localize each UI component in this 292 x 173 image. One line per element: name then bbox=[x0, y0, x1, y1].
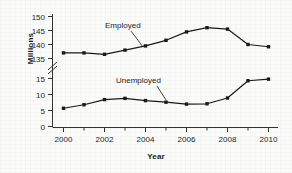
data-point-marker bbox=[164, 39, 167, 42]
data-point-marker bbox=[267, 45, 270, 48]
series-label-unemployed: Unemployed bbox=[116, 76, 161, 85]
x-axis-title: Year bbox=[126, 152, 186, 161]
annotation-employed: Employed bbox=[105, 21, 143, 47]
x-tick-label-2002: 2002 bbox=[96, 135, 114, 144]
data-point-marker bbox=[226, 96, 229, 99]
y-tick-label-5: 5 bbox=[41, 107, 46, 116]
series-employed bbox=[62, 26, 270, 56]
data-point-marker bbox=[226, 27, 229, 30]
data-point-marker bbox=[144, 44, 147, 47]
series-employed-markers bbox=[62, 26, 270, 56]
data-point-marker bbox=[123, 48, 126, 51]
data-point-marker bbox=[185, 102, 188, 105]
data-point-marker bbox=[246, 43, 249, 46]
data-point-marker bbox=[144, 99, 147, 102]
data-point-marker bbox=[82, 103, 85, 106]
series-unemployed-line bbox=[64, 79, 269, 108]
data-point-marker bbox=[246, 79, 249, 82]
x-tick-label-2006: 2006 bbox=[178, 135, 196, 144]
y-tick-label-15: 15 bbox=[36, 75, 45, 84]
data-point-marker bbox=[185, 30, 188, 33]
y-tick-label-10: 10 bbox=[36, 91, 45, 100]
leader-line-employed bbox=[131, 31, 143, 47]
data-point-marker bbox=[205, 26, 208, 29]
data-point-marker bbox=[103, 98, 106, 101]
x-tick-label-2010: 2010 bbox=[260, 135, 278, 144]
data-point-marker bbox=[62, 51, 65, 54]
x-axis-ticks: 2000 2002 2004 2006 2008 2010 bbox=[55, 128, 278, 145]
series-unemployed-markers bbox=[62, 77, 270, 110]
data-point-marker bbox=[267, 77, 270, 80]
data-point-marker bbox=[205, 102, 208, 105]
data-point-marker bbox=[123, 97, 126, 100]
series-unemployed bbox=[62, 77, 270, 110]
data-point-marker bbox=[82, 51, 85, 54]
chart-axes bbox=[53, 14, 279, 128]
annotation-unemployed: Unemployed bbox=[116, 76, 166, 100]
chart-figure: 150 145 140 135 15 10 5 0 bbox=[0, 0, 292, 173]
data-point-marker bbox=[164, 100, 167, 103]
leader-line-unemployed bbox=[157, 86, 166, 100]
y-axis-title: Millions bbox=[26, 21, 35, 77]
x-tick-label-2008: 2008 bbox=[219, 135, 237, 144]
x-tick-label-2004: 2004 bbox=[137, 135, 155, 144]
y-axis-ticks-lower: 15 10 5 0 bbox=[36, 75, 52, 132]
line-chart-plot: 150 145 140 135 15 10 5 0 bbox=[0, 0, 292, 173]
y-axis-ticks-upper: 150 145 140 135 bbox=[32, 13, 53, 64]
data-point-marker bbox=[103, 53, 106, 56]
y-tick-label-0: 0 bbox=[41, 123, 46, 132]
data-point-marker bbox=[62, 107, 65, 110]
x-tick-label-2000: 2000 bbox=[55, 135, 73, 144]
series-label-employed: Employed bbox=[105, 21, 141, 30]
